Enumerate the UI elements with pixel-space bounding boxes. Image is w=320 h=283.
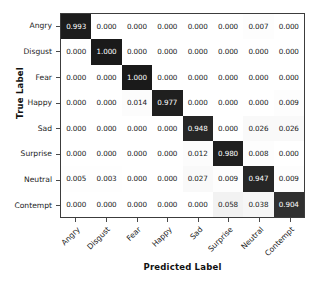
matrix-cell: 0.000: [243, 90, 273, 115]
matrix-cell: 0.012: [183, 141, 213, 166]
matrix-cell: 0.000: [152, 14, 182, 39]
matrix-cell: 0.003: [91, 166, 121, 191]
x-tick-slot: Disgust: [91, 223, 122, 257]
x-tick-slot: Sad: [183, 223, 214, 257]
x-tick-label: Disgust: [86, 225, 113, 252]
matrix-cell: 0.980: [213, 141, 243, 166]
matrix-cell: 0.000: [91, 116, 121, 141]
matrix-cell: 0.948: [183, 116, 213, 141]
x-axis-tick-labels: AngryDisgustFearHappySadSurpriseNeutralC…: [60, 223, 305, 257]
matrix-cell: 0.000: [183, 65, 213, 90]
y-tick-label: Contempt: [6, 192, 55, 218]
matrix-cell: 0.000: [91, 141, 121, 166]
matrix-cell: 0.038: [243, 192, 273, 217]
matrix-plot-area: 0.9930.0000.0000.0000.0000.0000.0070.000…: [60, 13, 305, 218]
matrix-cell: 0.000: [61, 65, 91, 90]
matrix-cell: 0.000: [152, 166, 182, 191]
matrix-cell: 0.000: [91, 65, 121, 90]
x-tick-label: Fear: [125, 225, 143, 243]
y-tick-label: Angry: [6, 13, 55, 39]
matrix-cell: 0.977: [152, 90, 182, 115]
matrix-cell: 0.000: [213, 14, 243, 39]
x-axis-title: Predicted Label: [60, 262, 305, 272]
matrix-cell: 0.009: [274, 166, 304, 191]
matrix-cell: 0.000: [61, 141, 91, 166]
y-tick-label: Surprise: [6, 141, 55, 167]
matrix-cell: 0.000: [61, 192, 91, 217]
matrix-cell: 0.000: [274, 39, 304, 64]
matrix-cell: 0.000: [122, 166, 152, 191]
x-tick-label: Neutral: [239, 225, 265, 251]
matrix-cell: 0.000: [61, 39, 91, 64]
matrix-cell: 0.947: [243, 166, 273, 191]
x-tick-label: Sad: [188, 225, 204, 241]
x-tick-slot: Angry: [60, 223, 91, 257]
matrix-cell: 0.000: [61, 90, 91, 115]
matrix-cell: 0.000: [91, 14, 121, 39]
matrix-cell: 1.000: [122, 65, 152, 90]
matrix-cell: 0.000: [274, 141, 304, 166]
matrix-cell: 0.000: [183, 192, 213, 217]
matrix-cell: 0.000: [213, 65, 243, 90]
x-tick-slot: Happy: [152, 223, 183, 257]
x-tick-label: Happy: [150, 225, 174, 249]
matrix-cell: 0.000: [152, 65, 182, 90]
matrix-cell: 0.000: [122, 116, 152, 141]
matrix-cell: 0.000: [243, 39, 273, 64]
x-tick-label: Angry: [59, 225, 81, 247]
y-tick-label: Happy: [6, 90, 55, 116]
matrix-cell: 0.000: [274, 65, 304, 90]
matrix-cell: 0.000: [274, 14, 304, 39]
matrix-cell: 0.007: [243, 14, 273, 39]
x-tick-slot: Fear: [121, 223, 152, 257]
matrix-cell: 0.000: [152, 116, 182, 141]
matrix-cell: 0.993: [61, 14, 91, 39]
matrix-cell: 0.000: [91, 192, 121, 217]
matrix-cell: 0.000: [213, 90, 243, 115]
matrix-cell: 0.000: [122, 39, 152, 64]
matrix-cell: 0.009: [213, 166, 243, 191]
matrix-cell: 0.008: [243, 141, 273, 166]
matrix-cell: 0.000: [122, 14, 152, 39]
matrix-cell: 0.000: [61, 116, 91, 141]
matrix-cell: 0.000: [152, 141, 182, 166]
confusion-matrix-figure: True Label AngryDisgustFearHappySadSurpr…: [0, 0, 320, 283]
x-tick-slot: Surprise: [213, 223, 244, 257]
matrix-cell: 0.000: [213, 39, 243, 64]
y-tick-label: Neutral: [6, 167, 55, 193]
matrix-cell: 0.027: [183, 166, 213, 191]
matrix-cell: 0.014: [122, 90, 152, 115]
matrix-cell: 0.000: [91, 90, 121, 115]
matrix-cell: 0.000: [243, 65, 273, 90]
matrix-cell: 0.000: [183, 90, 213, 115]
matrix-cell: 0.000: [183, 14, 213, 39]
matrix-cell: 0.000: [122, 141, 152, 166]
x-tick-slot: Contempt: [274, 223, 305, 257]
matrix-cell: 0.026: [274, 116, 304, 141]
matrix-cell: 0.000: [213, 116, 243, 141]
matrix-cell: 0.000: [152, 192, 182, 217]
matrix-cell: 0.904: [274, 192, 304, 217]
matrix-cell: 0.000: [152, 39, 182, 64]
matrix-cell: 0.000: [183, 39, 213, 64]
matrix-cell: 0.009: [274, 90, 304, 115]
y-axis-tick-labels: AngryDisgustFearHappySadSurpriseNeutralC…: [6, 13, 55, 218]
y-tick-label: Fear: [6, 64, 55, 90]
matrix-cell: 0.026: [243, 116, 273, 141]
matrix-cell: 0.000: [122, 192, 152, 217]
matrix-cell: 0.058: [213, 192, 243, 217]
matrix-grid: 0.9930.0000.0000.0000.0000.0000.0070.000…: [61, 14, 304, 217]
y-tick-label: Sad: [6, 116, 55, 142]
matrix-cell: 1.000: [91, 39, 121, 64]
y-tick-label: Disgust: [6, 39, 55, 65]
matrix-cell: 0.005: [61, 166, 91, 191]
